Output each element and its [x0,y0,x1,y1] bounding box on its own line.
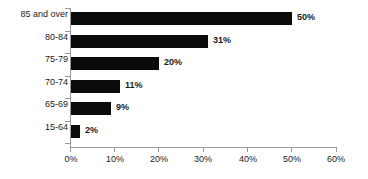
y-axis-tick [65,98,70,99]
bar-row: 50% [71,8,336,31]
x-axis-tick [247,148,248,152]
y-axis-tick [65,143,70,144]
x-axis-tick [70,148,71,152]
y-axis-tick [65,53,70,54]
x-tick-label: 50% [283,154,301,164]
bar [71,57,159,70]
bar-value-label: 11% [125,79,143,92]
x-tick-label: 30% [194,154,212,164]
x-axis-tick [158,148,159,152]
y-axis-tick [65,121,70,122]
bar-value-label: 2% [85,124,98,137]
bar-chart: 85 and over 80-84 75-79 70-74 65-69 15-6… [0,0,368,179]
bar [71,35,208,48]
category-label: 80-84 [2,31,68,44]
bar [71,102,111,115]
category-label: 70-74 [2,76,68,89]
x-axis-tick [336,148,337,152]
bar-value-label: 50% [297,11,315,24]
x-axis-tick [114,148,115,152]
bar-value-label: 20% [164,56,182,69]
bar-row: 11% [71,76,336,99]
plot-area: 50% 31% 20% 11% 9% 2% [71,8,336,143]
bar-row: 2% [71,121,336,144]
bar [71,80,120,93]
category-label: 85 and over [2,8,68,21]
bar [71,12,292,25]
bar-row: 20% [71,53,336,76]
x-axis-tick [203,148,204,152]
bar-row: 9% [71,98,336,121]
y-axis-tick [65,31,70,32]
x-tick-label: 20% [150,154,168,164]
category-label: 75-79 [2,53,68,66]
x-tick-label: 10% [106,154,124,164]
bar-value-label: 9% [116,101,129,114]
x-tick-label: 60% [327,154,345,164]
bar-row: 31% [71,31,336,54]
bar [71,125,80,138]
category-label: 15-64 [2,121,68,134]
category-axis-labels: 85 and over 80-84 75-79 70-74 65-69 15-6… [0,8,68,143]
category-label: 65-69 [2,98,68,111]
y-axis-tick [65,76,70,77]
x-tick-label: 40% [239,154,257,164]
x-tick-label: 0% [64,154,77,164]
y-axis-tick [65,8,70,9]
x-axis-tick [291,148,292,152]
bar-value-label: 31% [213,34,231,47]
